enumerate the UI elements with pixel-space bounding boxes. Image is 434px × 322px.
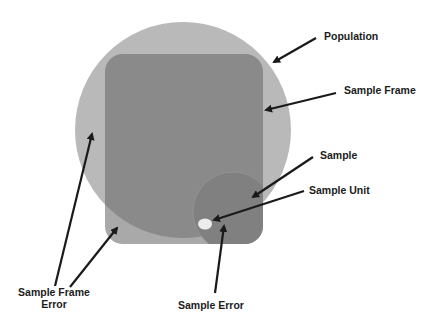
- sample-label: Sample: [320, 149, 358, 161]
- sample-frame-label: Sample Frame: [344, 84, 416, 96]
- sample-frame-error-label-line1: Sample Frame: [18, 286, 90, 298]
- sample-unit-label: Sample Unit: [309, 184, 370, 196]
- sample-circle: [193, 172, 273, 252]
- sample-frame-error-arrow-1: [55, 134, 92, 286]
- sample-frame-error-label-line2: Error: [41, 298, 67, 310]
- sample-frame-error-arrow-2: [70, 228, 117, 287]
- population-label: Population: [324, 30, 378, 42]
- sampling-diagram: Population Sample Frame Sample Sample Un…: [0, 0, 434, 322]
- sample-unit-dot: [198, 219, 212, 230]
- sample-error-label: Sample Error: [178, 299, 244, 311]
- population-arrow: [274, 38, 316, 62]
